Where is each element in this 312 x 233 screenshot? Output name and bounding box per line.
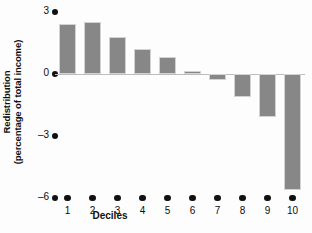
bar-decile-7: [209, 74, 226, 80]
y-axis-title-line-2: (percentage of total income): [12, 4, 23, 200]
y-axis-title: Redistribution (percentage of total inco…: [0, 0, 40, 200]
x-axis-title: Deciles: [55, 210, 165, 221]
x-tick-label: 7: [204, 205, 232, 216]
x-tick-dot-icon: [239, 195, 245, 201]
x-tick-label: 8: [229, 205, 257, 216]
x-tick-dot-icon: [139, 195, 145, 201]
bar-decile-4: [134, 49, 151, 74]
y-tick-label: –3: [38, 129, 49, 140]
y-axis-title-line-1: Redistribution: [1, 4, 12, 200]
x-tick-dot-icon: [64, 195, 70, 201]
y-tick-label: –6: [38, 191, 49, 202]
x-tick-label: 9: [254, 205, 282, 216]
bar-decile-8: [234, 74, 251, 97]
bar-decile-10: [284, 74, 301, 190]
bar-series: [55, 12, 305, 198]
bar-decile-6: [184, 71, 201, 74]
x-tick-label: 6: [179, 205, 207, 216]
x-tick-dot-icon: [189, 195, 195, 201]
x-tick-dot-icon: [164, 195, 170, 201]
redistribution-by-decile-chart: Redistribution (percentage of total inco…: [0, 0, 312, 233]
bar-decile-1: [59, 24, 76, 74]
y-tick-label: 3: [43, 5, 49, 16]
x-tick-dot-icon: [264, 195, 270, 201]
y-tick-label: 0: [43, 67, 49, 78]
bar-decile-9: [259, 74, 276, 117]
bar-decile-3: [109, 37, 126, 74]
bar-decile-2: [84, 22, 101, 74]
x-tick-dot-icon: [114, 195, 120, 201]
x-tick-dot-icon: [289, 195, 295, 201]
x-tick-dot-icon: [89, 195, 95, 201]
bar-decile-5: [159, 57, 176, 74]
x-tick-dot-icon: [214, 195, 220, 201]
plot-area: 30–3–6 12345678910: [55, 12, 305, 198]
x-tick-label: 10: [279, 205, 307, 216]
